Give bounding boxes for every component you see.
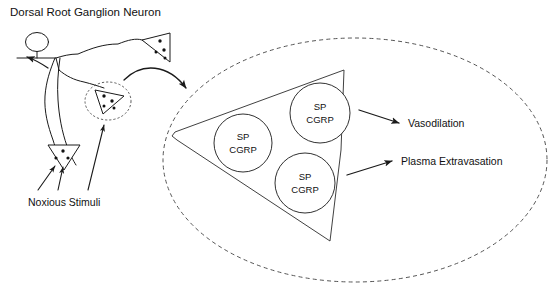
axon-branch-point — [56, 58, 59, 70]
vesicle-dot — [103, 105, 106, 108]
vesicle-dot — [102, 94, 105, 97]
noxious-stimuli-arrow-3 — [88, 125, 104, 190]
vasodilation-label: Vasodilation — [408, 117, 465, 129]
vesicle-label-cgrp: CGRP — [229, 144, 256, 155]
plasma-extravasation-arrow — [347, 161, 392, 175]
plasma-extravasation-label: Plasma Extravasation — [401, 155, 503, 167]
cns-direction-arrow — [27, 57, 48, 68]
axon-trunk-upper — [17, 39, 157, 58]
vesicle-circle — [275, 153, 335, 213]
magnification-arrow — [124, 68, 186, 88]
nerve-terminal-lower-left — [48, 145, 80, 170]
terminal-triangle-circled — [95, 90, 124, 114]
vesicle-dot — [66, 156, 69, 159]
noxious-stimuli-label: Noxious Stimuli — [28, 196, 100, 208]
vesicle-dot — [158, 39, 161, 42]
noxious-stimuli-arrow-1 — [38, 166, 55, 190]
vesicle-left: SP CGRP — [214, 114, 272, 172]
vesicle-top-right: SP CGRP — [290, 83, 350, 143]
vesicle-label-cgrp: CGRP — [306, 114, 333, 125]
nerve-terminal-circled — [95, 90, 124, 114]
diagram-canvas: SP CGRP SP CGRP SP CGRP Dorsal Root Gang… — [0, 0, 554, 292]
vesicle-label-sp: SP — [314, 101, 327, 112]
vesicle-label-sp: SP — [299, 171, 312, 182]
page-title: Dorsal Root Ganglion Neuron — [10, 6, 161, 18]
vesicle-dot — [162, 48, 165, 51]
vesicle-dot — [113, 107, 116, 110]
nerve-terminal-upper-right — [142, 33, 170, 62]
vesicle-circle — [214, 114, 272, 172]
vesicle-bottom-right: SP CGRP — [275, 153, 335, 213]
vesicle-circle — [290, 83, 350, 143]
noxious-stimuli-arrow-2 — [58, 167, 63, 190]
axon-branch-middle — [59, 70, 104, 88]
vesicle-dot — [164, 57, 167, 60]
terminal-triangle-lower — [48, 145, 80, 170]
vesicle-dot — [61, 149, 64, 152]
neurogenic-inflammation-diagram: SP CGRP SP CGRP SP CGRP Dorsal Root Gang… — [0, 0, 554, 292]
vesicle-label-sp: SP — [237, 131, 250, 142]
vesicle-dot — [54, 156, 57, 159]
vesicle-dot — [155, 51, 158, 54]
vesicle-label-cgrp: CGRP — [291, 184, 318, 195]
vasodilation-arrow — [359, 110, 399, 123]
soma-cell-body — [26, 33, 49, 52]
vesicle-dot — [110, 99, 113, 102]
